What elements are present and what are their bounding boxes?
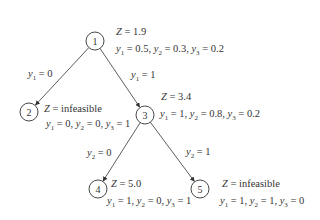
branch-label-1-2: y1 = 0: [27, 68, 53, 82]
variable-values: y1 = 0, y2 = 0, y3 = 1: [45, 118, 130, 132]
value: = 1,: [258, 195, 280, 206]
value: = 0.3,: [162, 43, 192, 54]
objective-value: Z = 3.4: [161, 91, 192, 102]
value: = 0: [36, 68, 52, 79]
tree-node-3: 3Z = 3.4y1 = 1, y2 = 0.8, y3 = 0.2: [136, 91, 260, 124]
tree-node-5: 5Z = infeasibley1 = 1, y2 = 1, y3 = 0: [191, 178, 304, 209]
value: = 1,: [168, 108, 190, 119]
value: = 0: [95, 147, 111, 158]
value: = 1: [114, 118, 130, 129]
variable-values: y1 = 1, y2 = 0, y3 = 1: [106, 195, 191, 209]
value: = 0.2: [200, 43, 224, 54]
node-number: 3: [143, 110, 148, 121]
objective-value: Z = infeasible: [44, 103, 102, 114]
value: = 0,: [54, 118, 76, 129]
value: = 1: [139, 69, 155, 80]
objective-value: Z = infeasible: [222, 178, 280, 189]
node-number: 4: [96, 184, 101, 195]
branch-and-bound-tree: y1 = 0y1 = 1y2 = 0y2 = 1 1Z = 1.9y1 = 0.…: [0, 0, 320, 220]
value: = 1: [194, 146, 210, 157]
node-number: 1: [93, 36, 98, 47]
branch-label-3-4: y2 = 0: [86, 147, 112, 161]
value: = 0,: [84, 118, 106, 129]
nodes-group: 1Z = 1.9y1 = 0.5, y2 = 0.3, y3 = 0.22Z =…: [20, 26, 304, 209]
value: = 1,: [115, 195, 137, 206]
tree-node-4: 4Z = 5.0y1 = 1, y2 = 0, y3 = 1: [89, 178, 191, 209]
variable-values: y1 = 1, y2 = 1, y3 = 0: [219, 195, 304, 209]
tree-node-1: 1Z = 1.9y1 = 0.5, y2 = 0.3, y3 = 0.2: [86, 26, 224, 57]
branch-label-1-3: y1 = 1: [130, 69, 156, 83]
tree-node-2: 2Z = infeasibley1 = 0, y2 = 0, y3 = 1: [20, 103, 130, 132]
value: = 0.5,: [124, 43, 154, 54]
variable-values: y1 = 1, y2 = 0.8, y3 = 0.2: [159, 108, 260, 122]
branch-label-3-5: y2 = 1: [185, 146, 211, 160]
node-number: 5: [198, 184, 203, 195]
value: = 0.2: [236, 108, 260, 119]
value: = 0: [288, 195, 304, 206]
value: = 0.8,: [198, 108, 228, 119]
variable-values: y1 = 0.5, y2 = 0.3, y3 = 0.2: [115, 43, 224, 57]
objective-value: Z = 1.9: [116, 26, 146, 37]
node-number: 2: [27, 107, 32, 118]
value: = 1,: [228, 195, 250, 206]
objective-value: Z = 5.0: [111, 178, 141, 189]
value: = 0,: [145, 195, 167, 206]
value: = 1: [175, 195, 191, 206]
